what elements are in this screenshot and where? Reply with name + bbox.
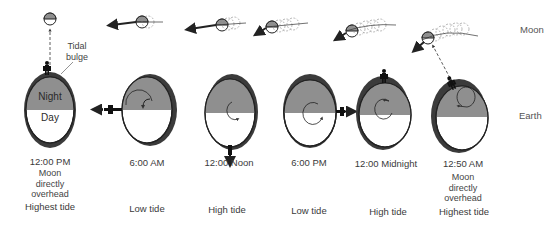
panel-6	[416, 23, 495, 153]
day-label: Day	[41, 112, 59, 123]
gravity-line	[433, 46, 450, 78]
person-icon	[96, 105, 122, 114]
tidal-bulge-label-line1: Tidal	[67, 41, 86, 51]
tide-label-5: High tide	[353, 206, 423, 217]
tide-label-3: High tide	[192, 204, 262, 215]
moon-row-label: Moon	[520, 24, 544, 35]
description-line: Moon	[20, 168, 80, 179]
tide-label-2: Low tide	[112, 203, 182, 214]
panel-1: Night Day Tidal bulge	[20, 13, 88, 148]
description-line: overhead	[433, 193, 493, 204]
time-label-2: 6:00 AM	[117, 157, 177, 168]
tide-label-1: Highest tide	[15, 201, 85, 212]
time-label-3: 12:00 Noon	[188, 157, 270, 168]
description-line: Moon	[433, 172, 493, 183]
tide-label-4: Low tide	[274, 205, 344, 216]
time-label-4: 6:00 PM	[279, 157, 339, 168]
time-label-1: 12:00 PM	[20, 156, 80, 167]
description-1: Moon directly overhead	[20, 168, 80, 200]
description-line: directly	[20, 179, 80, 190]
panel-3	[190, 17, 260, 162]
moon-icon	[258, 18, 308, 33]
moon-icon	[190, 17, 246, 31]
tide-label-6: Highest tide	[426, 206, 502, 217]
time-label-5: 12:00 Midnight	[344, 158, 428, 169]
description-line: directly	[433, 183, 493, 194]
moon-icon	[416, 23, 478, 49]
moon-icon	[44, 13, 56, 25]
moon-icon	[112, 16, 163, 28]
time-label-6: 12:50 AM	[433, 158, 493, 169]
description-6: Moon directly overhead	[433, 172, 493, 204]
moon-icon	[338, 19, 396, 38]
night-label: Night	[38, 91, 62, 102]
earth-row-label: Earth	[519, 110, 542, 121]
panel-2	[96, 16, 180, 146]
person-icon	[336, 107, 352, 116]
description-line: overhead	[20, 189, 80, 200]
tidal-bulge-label-line2: bulge	[66, 52, 88, 62]
panel-5	[338, 19, 415, 150]
